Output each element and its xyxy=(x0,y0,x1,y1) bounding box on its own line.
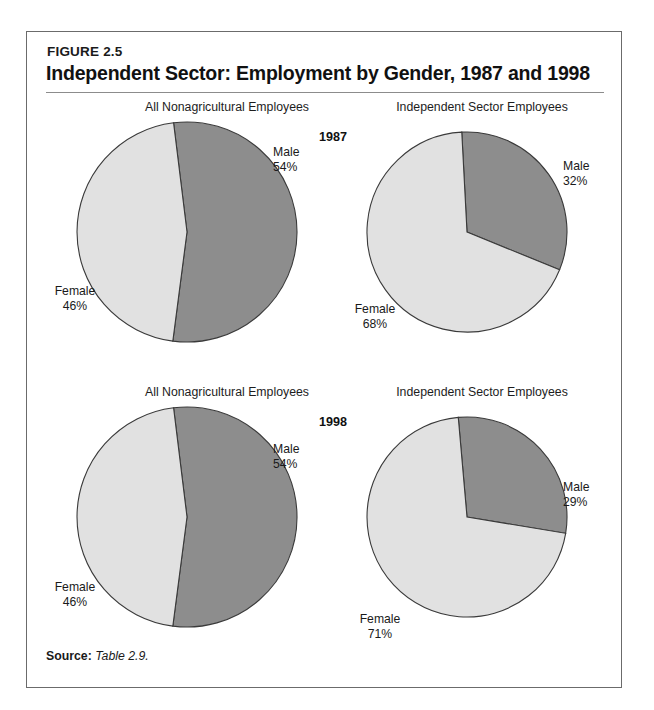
figure-frame: FIGURE 2.5 Independent Sector: Employmen… xyxy=(26,31,622,688)
pie-label-female-1987-all: Female 46% xyxy=(45,284,105,314)
year-label-1998: 1998 xyxy=(319,415,347,429)
column-header-left-1998: All Nonagricultural Employees xyxy=(97,385,357,399)
pie-label-female-text: Female xyxy=(360,612,401,626)
year-label-1987: 1987 xyxy=(319,130,347,144)
pie-label-male-pct: 54% xyxy=(273,160,299,175)
pie-label-female-pct: 46% xyxy=(45,595,105,610)
pie-label-female-text: Female xyxy=(355,302,396,316)
pie-slice-male-1998-ind xyxy=(458,417,567,533)
pie-label-male-pct: 32% xyxy=(563,174,589,189)
pie-chart-1987-all-nonagricultural xyxy=(75,120,299,344)
pie-label-male-1987-ind: Male 32% xyxy=(563,159,589,189)
pie-label-female-pct: 68% xyxy=(345,317,405,332)
pie-slice-male-1998-all xyxy=(173,407,297,627)
pie-label-male-text: Male xyxy=(273,442,299,456)
pie-label-male-text: Male xyxy=(563,480,589,494)
title-divider xyxy=(46,92,604,93)
page-title: Independent Sector: Employment by Gender… xyxy=(46,62,590,85)
source-key: Source: xyxy=(46,649,92,663)
pie-label-male-text: Male xyxy=(563,159,589,173)
pie-label-female-text: Female xyxy=(55,580,96,594)
pie-label-female-1998-all: Female 46% xyxy=(45,580,105,610)
pie-label-male-1987-all: Male 54% xyxy=(273,145,299,175)
column-header-left-1987: All Nonagricultural Employees xyxy=(97,100,357,114)
pie-label-female-1987-ind: Female 68% xyxy=(345,302,405,332)
pie-label-female-pct: 46% xyxy=(45,299,105,314)
pie-label-female-1998-ind: Female 71% xyxy=(349,612,411,642)
figure-number-label: FIGURE 2.5 xyxy=(47,44,123,59)
column-header-right-1998: Independent Sector Employees xyxy=(357,385,607,399)
pie-label-male-text: Male xyxy=(273,145,299,159)
pie-label-male-1998-all: Male 54% xyxy=(273,442,299,472)
column-header-right-1987: Independent Sector Employees xyxy=(357,100,607,114)
pie-label-female-text: Female xyxy=(55,284,96,298)
pie-label-female-pct: 71% xyxy=(349,627,411,642)
pie-chart-1998-independent-sector xyxy=(365,415,569,619)
pie-label-male-pct: 54% xyxy=(273,457,299,472)
source-value: Table 2.9. xyxy=(95,649,149,663)
source-note: Source: Table 2.9. xyxy=(46,649,149,663)
pie-chart-1998-all-nonagricultural xyxy=(75,405,299,629)
pie-label-male-pct: 29% xyxy=(563,495,589,510)
pie-label-male-1998-ind: Male 29% xyxy=(563,480,589,510)
